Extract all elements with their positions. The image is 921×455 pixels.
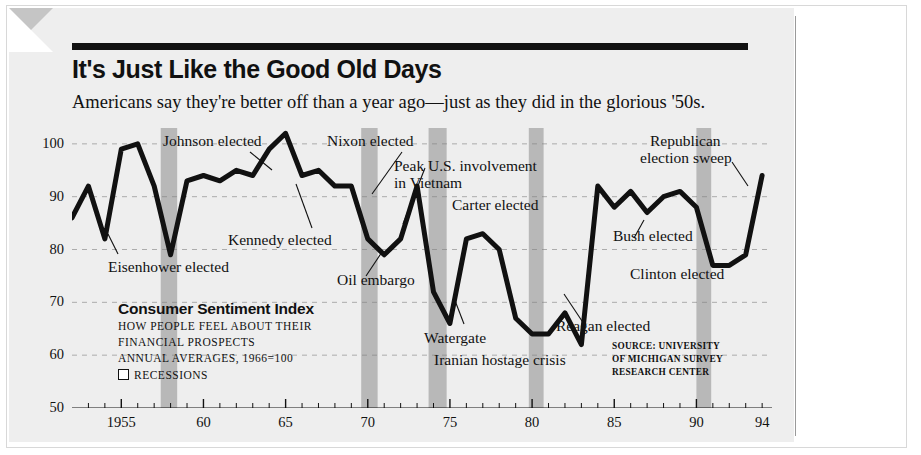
annotation-bush: Bush elected [613, 228, 693, 244]
annotation-oil-embargo: Oil embargo [337, 272, 415, 288]
legend-line-1: HOW PEOPLE FEEL ABOUT THEIR [118, 320, 312, 332]
header-rule [72, 43, 748, 50]
annotation-watergate: Watergate [424, 330, 486, 346]
source-line-2: OF MICHIGAN SURVEY [612, 354, 723, 364]
x-tick-65: 65 [261, 414, 311, 431]
recession-swatch-icon [118, 369, 129, 380]
leader-line-1 [250, 152, 272, 170]
x-tick-94: 94 [737, 414, 787, 431]
legend-title: Consumer Sentiment Index [118, 300, 314, 318]
annotation-vietnam-line1: Peak U.S. involvement [394, 158, 537, 174]
annotation-clinton: Clinton elected [630, 266, 724, 282]
x-tick-70: 70 [343, 414, 393, 431]
annotation-kennedy: Kennedy elected [228, 232, 332, 248]
x-tick-85: 85 [589, 414, 639, 431]
annotation-eisenhower: Eisenhower elected [108, 259, 229, 275]
page-title: It's Just Like the Good Old Days [72, 55, 772, 84]
source-line-1: SOURCE: UNIVERSITY [612, 341, 720, 351]
annotation-nixon: Nixon elected [327, 133, 414, 149]
source-line-3: RESEARCH CENTER [612, 367, 709, 377]
vertical-divider [795, 16, 796, 436]
leader-line-9 [732, 162, 748, 186]
y-tick-100: 100 [30, 135, 64, 152]
annotation-iranian: Iranian hostage crisis [434, 352, 566, 368]
recession-band-1 [361, 128, 377, 408]
y-tick-60: 60 [30, 346, 64, 363]
page-subtitle: Americans say they're better off than a … [72, 92, 792, 113]
leader-line-2 [296, 184, 312, 228]
leader-line-0 [108, 234, 118, 254]
y-tick-50: 50 [30, 399, 64, 416]
x-tick-90: 90 [671, 414, 721, 431]
leader-line-6 [454, 298, 464, 324]
annotation-republican-line1: Republican [650, 133, 721, 149]
annotation-vietnam-line2: in Vietnam [394, 175, 462, 191]
x-tick-1955: 1955 [96, 414, 146, 431]
clipping-page: It's Just Like the Good Old Days America… [0, 0, 921, 455]
legend-line-3: ANNUAL AVERAGES, 1966=100 [118, 352, 293, 364]
annotation-johnson: Johnson elected [163, 133, 262, 149]
x-tick-80: 80 [507, 414, 557, 431]
annotation-carter: Carter elected [452, 197, 538, 213]
annotation-republican-line2: election sweep [640, 150, 732, 166]
x-tick-60: 60 [178, 414, 228, 431]
y-tick-80: 80 [30, 241, 64, 258]
x-tick-75: 75 [425, 414, 475, 431]
annotation-reagan: Reagan elected [556, 318, 650, 334]
legend-recessions: RECESSIONS [118, 369, 208, 381]
y-tick-70: 70 [30, 293, 64, 310]
recession-label: RECESSIONS [134, 369, 208, 381]
y-tick-90: 90 [30, 188, 64, 205]
legend-line-2: FINANCIAL PROSPECTS [118, 336, 255, 348]
page-fold-highlight [9, 8, 53, 52]
